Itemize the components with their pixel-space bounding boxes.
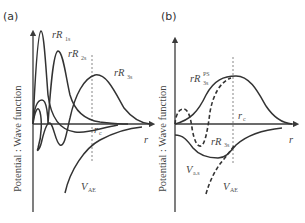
panel-b-label-rR3s: rR 3s (211, 136, 230, 148)
panel-b-curve-rR3s (175, 78, 231, 146)
svg-text:3s: 3s (203, 80, 209, 86)
svg-text:rR: rR (211, 136, 222, 147)
panel-a-label: (a) (3, 10, 18, 23)
svg-text:a.s: a.s (193, 170, 200, 176)
svg-text:rR: rR (68, 48, 79, 59)
svg-text:PS: PS (203, 71, 210, 77)
panel-b-cutoff-label: r c (238, 110, 246, 122)
svg-text:3s: 3s (224, 142, 230, 148)
panel-b-ylabel: Potential : Wave function (157, 85, 168, 192)
panel-a-label-VAE: V AE (81, 181, 96, 193)
svg-text:rR: rR (114, 67, 125, 78)
svg-text:1s: 1s (65, 36, 71, 42)
panel-a-ylabel: Potential : Wave function (12, 85, 23, 192)
panel-a-label-rR1s: rR 1s (52, 29, 71, 42)
panel-b-label: (b) (161, 10, 177, 23)
panel-a-curve-VAE (65, 127, 142, 193)
panel-b-label-VAE: V AE (223, 181, 238, 193)
panel-a-cutoff-label: r c (94, 124, 102, 136)
panel-b-label-rR3s-PS: rR PS 3s (190, 71, 210, 86)
panel-a-label-rR2s: rR 2s (68, 48, 87, 61)
svg-text:rR: rR (190, 73, 201, 84)
svg-text:rR: rR (52, 29, 63, 40)
panel-a-xlabel: r (144, 134, 149, 145)
panel-a-label-rR3s: rR 3s (114, 67, 133, 80)
svg-text:AE: AE (230, 187, 238, 193)
panel-b: (b) Potential : Wave function rR PS 3s r… (157, 10, 296, 212)
svg-text:c: c (243, 116, 246, 122)
svg-text:AE: AE (88, 187, 96, 193)
figure: (a) Potential : Wave function rR 1s rR 2… (0, 0, 305, 223)
svg-text:c: c (99, 130, 102, 136)
svg-text:3s: 3s (127, 74, 133, 80)
panel-a: (a) Potential : Wave function rR 1s rR 2… (3, 10, 152, 212)
panel-b-xlabel: r (289, 134, 294, 145)
svg-text:2s: 2s (81, 55, 87, 61)
panel-b-label-Vas: V a.s (186, 164, 200, 176)
panel-a-curve-rR1s (33, 31, 118, 132)
